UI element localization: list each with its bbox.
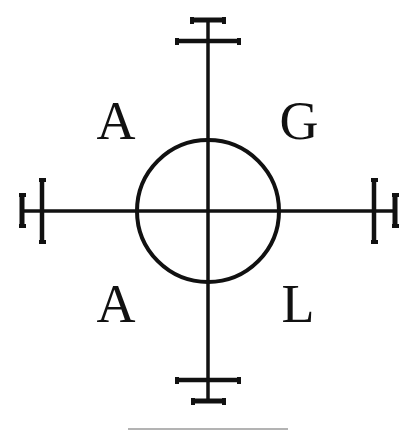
letter-bottom-right: L — [268, 277, 328, 331]
letter-bottom-left: A — [86, 277, 146, 331]
emblem-diagram: A G A L — [0, 0, 414, 436]
letter-top-left: A — [86, 94, 146, 148]
letter-top-right: G — [269, 94, 329, 148]
emblem-graphic — [0, 0, 414, 436]
